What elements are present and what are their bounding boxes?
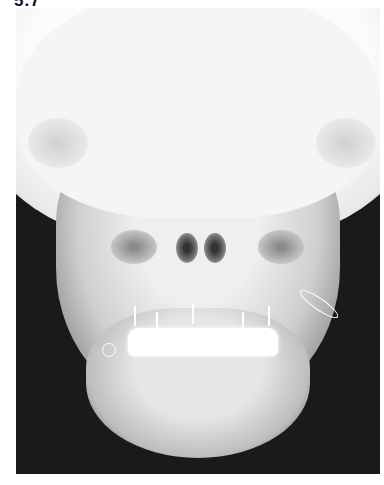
right-maxillary-sinus	[258, 230, 304, 264]
fixation-wire	[192, 304, 194, 324]
right-nasal-cavity	[204, 233, 226, 263]
xray-image	[16, 8, 380, 474]
right-orbit	[316, 118, 376, 168]
fixation-wire	[268, 306, 270, 326]
dental-arch-bar	[128, 328, 278, 356]
fixation-wire	[242, 312, 244, 332]
left-maxillary-sinus	[111, 230, 157, 264]
left-surgical-clip	[102, 343, 116, 357]
fixation-wire	[156, 312, 158, 332]
cranium	[16, 8, 380, 218]
left-orbit	[28, 118, 88, 168]
fixation-wire	[134, 306, 136, 326]
left-nasal-cavity	[176, 233, 198, 263]
